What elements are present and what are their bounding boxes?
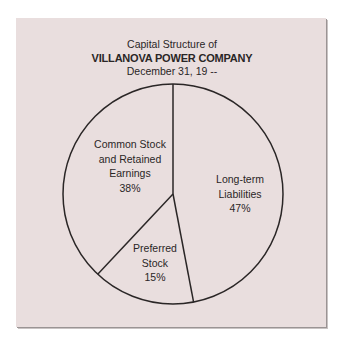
- slice-label-line: Stock: [120, 256, 190, 271]
- slice-label-line: Preferred: [120, 241, 190, 256]
- slice-label-common-stock: Common Stock and Retained Earnings 38%: [80, 137, 180, 195]
- slice-percent: 38%: [80, 181, 180, 196]
- slice-percent: 15%: [120, 270, 190, 285]
- slice-label-line: Liabilities: [200, 187, 280, 202]
- slice-label-line: Common Stock: [80, 137, 180, 152]
- slice-percent: 47%: [200, 201, 280, 216]
- slice-label-line: Earnings: [80, 166, 180, 181]
- slice-label-preferred-stock: Preferred Stock 15%: [120, 241, 190, 285]
- slice-label-line: and Retained: [80, 152, 180, 167]
- slice-label-long-term-liabilities: Long-term Liabilities 47%: [200, 172, 280, 216]
- slice-label-line: Long-term: [200, 172, 280, 187]
